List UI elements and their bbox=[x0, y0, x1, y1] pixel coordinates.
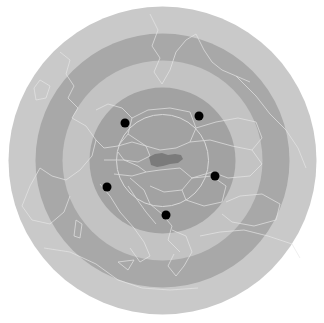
point-s-marker bbox=[162, 211, 171, 220]
point-ne-marker bbox=[195, 112, 204, 121]
point-e-marker bbox=[211, 172, 220, 181]
point-nw-marker bbox=[121, 119, 130, 128]
point-sw-marker bbox=[103, 183, 112, 192]
concentric-distance-map bbox=[0, 0, 324, 323]
map-canvas bbox=[0, 0, 324, 323]
